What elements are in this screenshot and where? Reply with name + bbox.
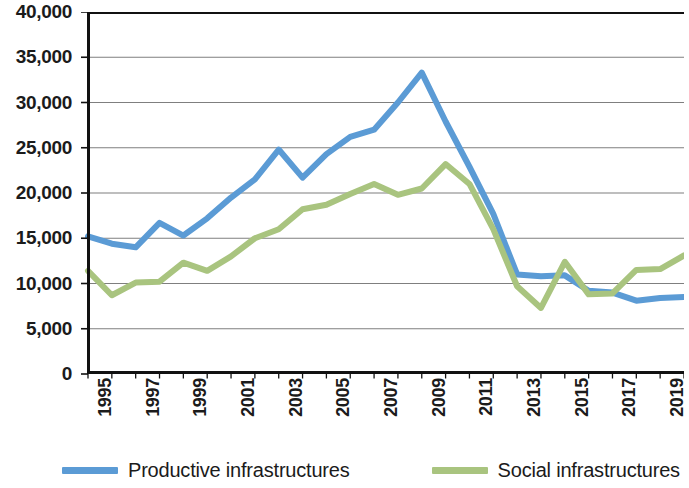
- x-tick-label: 1999: [190, 378, 211, 417]
- y-tick-label: 35,000: [16, 46, 72, 68]
- x-tick-label: 2013: [524, 378, 545, 417]
- y-tick-label: 15,000: [16, 227, 72, 249]
- plot-area: [78, 12, 674, 374]
- legend-swatch-productive: [62, 467, 118, 474]
- y-tick-label: 25,000: [16, 137, 72, 159]
- legend-item-productive-infrastructures: Productive infrastructures: [62, 459, 350, 482]
- x-tick-label: 2009: [429, 378, 450, 417]
- y-tick-label: 20,000: [16, 182, 72, 204]
- plot-svg: [78, 12, 684, 384]
- x-tick-label: 2011: [476, 378, 497, 416]
- legend-swatch-social: [432, 467, 488, 474]
- x-axis: 1995199719992001200320052007200920112013…: [0, 378, 689, 450]
- x-tick-label: 2003: [286, 378, 307, 417]
- x-tick-label: 2019: [667, 378, 688, 417]
- y-tick-label: 40,000: [16, 1, 72, 23]
- x-tick-label: 2005: [333, 378, 354, 417]
- line-chart: 05,00010,00015,00020,00025,00030,00035,0…: [0, 0, 689, 488]
- x-tick-label: 2017: [619, 378, 640, 417]
- chart-legend: Productive infrastructures Social infras…: [0, 452, 689, 488]
- y-tick-label: 10,000: [16, 273, 72, 295]
- y-axis: 05,00010,00015,00020,00025,00030,00035,0…: [0, 0, 80, 380]
- x-tick-label: 2007: [381, 378, 402, 417]
- y-tick-label: 5,000: [26, 318, 72, 340]
- legend-label-productive: Productive infrastructures: [128, 459, 350, 482]
- x-tick-label: 2015: [572, 378, 593, 417]
- series-line-social: [88, 164, 684, 308]
- x-tick-label: 1995: [95, 378, 116, 417]
- legend-label-social: Social infrastructures: [498, 459, 680, 482]
- y-tick-label: 30,000: [16, 92, 72, 114]
- legend-item-social-infrastructures: Social infrastructures: [432, 459, 680, 482]
- x-tick-label: 2001: [238, 378, 259, 417]
- x-tick-label: 1997: [143, 378, 164, 417]
